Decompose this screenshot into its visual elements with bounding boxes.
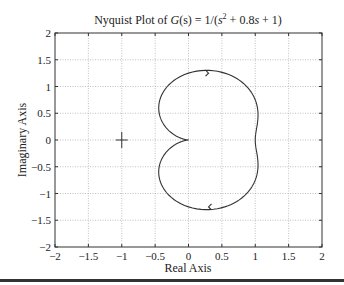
x-axis-label: Real Axis bbox=[165, 261, 212, 275]
x-tick-label: 2 bbox=[319, 250, 325, 262]
y-tick-label: −1 bbox=[39, 188, 51, 200]
critical-point-marker bbox=[116, 132, 128, 148]
x-tick-label: −1 bbox=[116, 250, 128, 262]
y-tick-label: 0.5 bbox=[37, 107, 51, 119]
x-tick-label: 1 bbox=[253, 250, 259, 262]
y-tick-label: 1.5 bbox=[37, 54, 51, 66]
y-tick-label: −0.5 bbox=[31, 161, 51, 173]
y-tick-label: −1.5 bbox=[31, 214, 51, 226]
y-tick-labels: −2−1.5−1−0.500.511.52 bbox=[31, 27, 51, 253]
x-tick-label: −1.5 bbox=[78, 250, 98, 262]
y-tick-label: 0 bbox=[46, 134, 52, 146]
x-tick-label: −0.5 bbox=[145, 250, 165, 262]
x-tick-label: 1.5 bbox=[282, 250, 296, 262]
bottom-divider bbox=[0, 279, 344, 282]
chart-title: Nyquist Plot of G(s) = 1/(s2 + 0.8s + 1) bbox=[94, 12, 282, 27]
y-tick-label: 2 bbox=[46, 27, 52, 39]
y-tick-label: −2 bbox=[39, 241, 51, 253]
y-axis-label: Imaginary Axis bbox=[15, 103, 29, 178]
y-tick-label: 1 bbox=[46, 81, 52, 93]
x-tick-label: 0.5 bbox=[215, 250, 229, 262]
nyquist-chart: −2−1.5−1−0.500.511.52 −2−1.5−1−0.500.511… bbox=[0, 0, 344, 285]
